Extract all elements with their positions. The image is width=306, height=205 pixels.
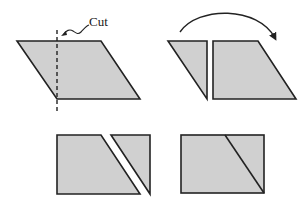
assembled-rectangle (181, 135, 264, 193)
cut-pointer-squiggle (63, 25, 89, 35)
cut-triangle (168, 41, 207, 99)
panel-step-1: Cut (17, 14, 140, 113)
parallelogram (17, 41, 140, 99)
cut-label: Cut (89, 14, 108, 29)
remaining-trapezoid (213, 41, 296, 99)
move-arrow-icon (180, 13, 275, 38)
panel-step-3 (57, 135, 150, 194)
cut-diagram: Cut (0, 0, 306, 205)
cut-pointer-arrowhead-icon (61, 31, 67, 36)
panel-step-2 (168, 13, 296, 99)
panel-step-4 (181, 135, 264, 193)
